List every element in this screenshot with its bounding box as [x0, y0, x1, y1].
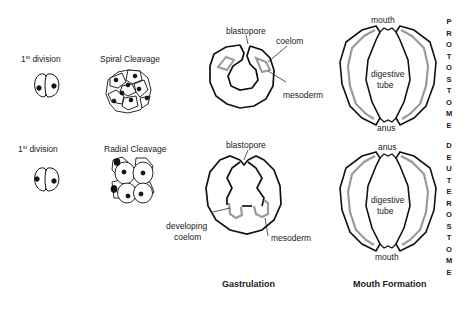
digestive-tube-label-deuterostome: digestive — [371, 196, 405, 205]
mouth-label-protostome: mouth — [371, 16, 395, 25]
mesoderm-label-deuterostome: mesoderm — [271, 234, 311, 243]
mesoderm-label-protostome: mesoderm — [283, 91, 323, 100]
spiral-cleavage-embryo — [106, 70, 151, 113]
deuterostome-gastrula — [206, 156, 281, 234]
two-cell-embryo-deuterostome — [35, 168, 59, 191]
blastopore-label-protostome: blastopore — [226, 27, 266, 36]
radial-cleavage-embryo — [111, 157, 154, 203]
diagram-artwork — [0, 0, 474, 309]
protostome-gastrula — [210, 45, 274, 108]
mouth-label-deuterostome: mouth — [375, 253, 399, 262]
anus-label-deuterostome: anus — [378, 143, 396, 152]
mouth-formation-column-title: Mouth Formation — [353, 280, 427, 289]
gastrulation-column-title: Gastrulation — [222, 280, 275, 289]
digestive-tube-label-deuterostome-2: tube — [377, 207, 394, 216]
digestive-tube-label-protostome-2: tube — [377, 81, 394, 90]
first-division-label-protostome: 1st division — [21, 55, 61, 64]
two-cell-embryo-protostome — [35, 74, 59, 97]
coelom-label: coelom — [276, 37, 303, 46]
protostome-vertical-title: PROTOSTOME — [443, 16, 455, 131]
spiral-cleavage-label: Spiral Cleavage — [100, 55, 160, 64]
anus-label-protostome: anus — [377, 124, 395, 133]
developing-coelom-label-2: coelom — [174, 233, 201, 242]
blastopore-label-deuterostome: blastopore — [226, 141, 266, 150]
protostome-mesoderm — [218, 57, 270, 72]
developing-coelom-label: developing — [166, 222, 207, 231]
digestive-tube-label-protostome: digestive — [371, 70, 405, 79]
radial-cleavage-label: Radial Cleavage — [104, 145, 166, 154]
deuterostome-vertical-title: DEUTEROSTOME — [443, 140, 455, 278]
first-division-label-deuterostome: 1st division — [18, 145, 58, 154]
